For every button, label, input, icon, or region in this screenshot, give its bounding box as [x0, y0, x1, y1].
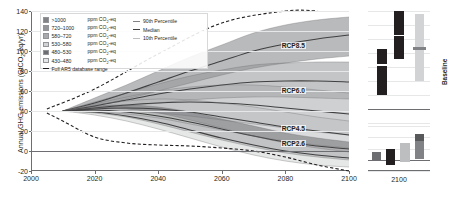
panel-gridline: [368, 171, 430, 172]
legend-band-range: 480–530: [52, 49, 88, 55]
x-tick-mark: [31, 171, 32, 174]
legend-swatch: [43, 17, 49, 23]
legend-band-unit: ppm CO2-eq: [88, 48, 116, 56]
legend-full-range-label: Full AR5 database range: [52, 66, 108, 72]
baseline-panel: [368, 11, 430, 123]
y-tick-label: 80: [20, 68, 28, 75]
legend-percentile-label: Median: [143, 27, 160, 33]
panel-zero-line: [368, 109, 430, 110]
legend-swatch: [43, 25, 49, 31]
y-tick-label: 0: [24, 148, 28, 155]
legend-band-unit: ppm CO2-eq: [88, 57, 116, 65]
panel-bar-1: [377, 66, 387, 95]
legend-item-band[interactable]: 480–530ppm CO2-eq: [43, 48, 116, 56]
legend-percentile-label: 90th Percentile: [143, 18, 177, 24]
chart-root: Annual GHG emissions (GtCO2-eq/yr) -2002…: [0, 0, 455, 198]
legend-item-band[interactable]: 720–1000ppm CO2-eq: [43, 24, 116, 32]
panel-bar-1: [372, 152, 381, 161]
rcp-label-rcp4-5: RCP4.5: [281, 125, 306, 132]
chart-legend: >1000ppm CO2-eq720–1000ppm CO2-eq580–720…: [40, 13, 208, 69]
legend-band-range: 530–580: [52, 41, 88, 47]
x-tick-label: 2000: [23, 175, 39, 182]
panel-gridline: [368, 95, 430, 96]
legend-percentile-label: 10th Percentile: [143, 35, 177, 41]
year-2100-panel: [368, 126, 430, 171]
x-tick-label: 2100: [341, 175, 357, 182]
x-tick-label: 2040: [150, 175, 166, 182]
legend-percentile-line: [133, 21, 140, 22]
y-tick-label: -20: [18, 168, 28, 175]
legend-band-unit: ppm CO2-eq: [88, 16, 116, 24]
legend-swatch: [43, 58, 49, 64]
legend-percentile-line: [133, 38, 140, 39]
y-tick-mark: [29, 31, 32, 32]
legend-swatch: [43, 50, 49, 56]
year-2100-panel-label: 2100: [391, 176, 407, 183]
y-tick-mark: [29, 11, 32, 12]
gridline: [31, 11, 349, 12]
gridline: [31, 111, 349, 112]
legend-dash-line: [43, 68, 49, 69]
y-tick-label: 140: [16, 8, 28, 15]
y-tick-mark: [29, 91, 32, 92]
y-tick-label: 120: [16, 28, 28, 35]
y-tick-mark: [29, 111, 32, 112]
panel-bar-baseline-median: [413, 47, 427, 50]
panel-bar-2: [377, 49, 387, 64]
legend-item-percentile[interactable]: Median: [133, 26, 177, 35]
legend-band-range: 720–1000: [52, 25, 88, 31]
panel-bar-3: [394, 36, 404, 58]
rcp-label-rcp6-0: RCP6.0: [281, 87, 306, 94]
legend-item-percentile[interactable]: 10th Percentile: [133, 34, 177, 43]
legend-item-band[interactable]: 580–720ppm CO2-eq: [43, 32, 116, 40]
panel-gridline: [368, 126, 430, 127]
rcp-label-rcp2-6: RCP2.6: [281, 140, 306, 147]
y-tick-mark: [29, 51, 32, 52]
x-tick-mark: [285, 171, 286, 174]
rcp-label-rcp8-5: RCP8.5: [281, 42, 306, 49]
legend-band-list: >1000ppm CO2-eq720–1000ppm CO2-eq580–720…: [43, 16, 116, 73]
panel-x-axis: [368, 170, 430, 171]
zero-line: [31, 151, 349, 152]
x-tick-mark: [95, 171, 96, 174]
x-tick-label: 2080: [278, 175, 294, 182]
legend-item-band[interactable]: 530–580ppm CO2-eq: [43, 40, 116, 48]
legend-percentile-list: 90th PercentileMedian10th Percentile: [133, 17, 177, 43]
panel-bar-4: [394, 11, 404, 35]
panel-bar-4-cap: [415, 134, 424, 141]
panel-bar-2: [386, 149, 395, 166]
legend-band-unit: ppm CO2-eq: [88, 24, 116, 32]
y-tick-label: 20: [20, 128, 28, 135]
legend-swatch: [43, 42, 49, 48]
legend-band-unit: ppm CO2-eq: [88, 40, 116, 48]
y-tick-label: 40: [20, 108, 28, 115]
legend-band-range: 580–720: [52, 33, 88, 39]
y-tick-mark: [29, 71, 32, 72]
x-tick-label: 2060: [214, 175, 230, 182]
x-tick-mark: [158, 171, 159, 174]
legend-swatch: [43, 33, 49, 39]
y-tick-mark: [29, 131, 32, 132]
x-tick-label: 2020: [87, 175, 103, 182]
y-tick-mark: [29, 151, 32, 152]
panel-bar-3: [400, 143, 409, 162]
x-tick-mark: [349, 171, 350, 174]
legend-item-full-range[interactable]: Full AR5 database range: [43, 65, 116, 73]
y-tick-label: 60: [20, 88, 28, 95]
legend-band-range: 430–480: [52, 58, 88, 64]
legend-item-band[interactable]: >1000ppm CO2-eq: [43, 16, 116, 24]
panel-gridline: [368, 123, 430, 124]
legend-item-band[interactable]: 430–480ppm CO2-eq: [43, 56, 116, 64]
legend-band-unit: ppm CO2-eq: [88, 32, 116, 40]
legend-item-percentile[interactable]: 90th Percentile: [133, 17, 177, 26]
y-tick-label: 100: [16, 48, 28, 55]
legend-percentile-line: [133, 29, 140, 30]
baseline-panel-label: Baseline: [441, 59, 448, 85]
x-tick-mark: [222, 171, 223, 174]
legend-band-range: >1000: [52, 17, 88, 23]
